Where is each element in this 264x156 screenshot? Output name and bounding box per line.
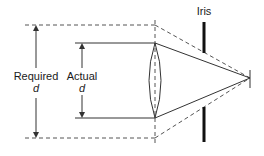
lens-iris-diagram: Required d Actual d Iris: [0, 0, 264, 156]
actual-label: Actual: [67, 70, 98, 82]
required-d-label: d: [33, 82, 40, 94]
iris-upper-blade: [203, 22, 206, 53]
iris-lower-blade: [203, 107, 206, 142]
required-label: Required: [14, 70, 59, 82]
iris-label: Iris: [197, 5, 212, 17]
actual-d-label: d: [79, 82, 86, 94]
